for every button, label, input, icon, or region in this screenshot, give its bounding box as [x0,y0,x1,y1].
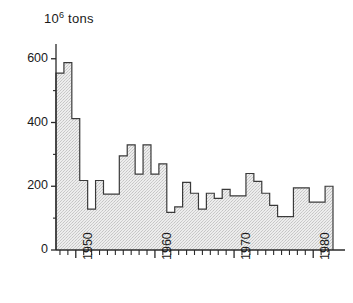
y-axis-ticks [51,59,56,250]
y-tick-label: 200 [4,178,48,192]
x-tick-label: 1970 [239,232,253,260]
chart-plot-area [0,0,353,303]
chart-figure: 106 tons 0200400600 1950196019701980 [0,0,353,303]
x-tick-label: 1960 [160,232,174,260]
step-area-series [56,63,333,250]
y-axis-unit-exponent: 6 [59,10,64,20]
y-axis-unit-mantissa: 10 [44,11,59,26]
x-tick-label: 1980 [318,232,332,260]
y-tick-label: 600 [4,51,48,65]
y-axis-unit-label: 106 tons [44,10,94,26]
x-axis-ticks [60,250,329,258]
y-tick-label: 0 [4,242,48,256]
y-axis-unit-text: tons [68,11,94,26]
series-fill [56,63,333,250]
x-tick-label: 1950 [81,232,95,260]
y-tick-label: 400 [4,115,48,129]
